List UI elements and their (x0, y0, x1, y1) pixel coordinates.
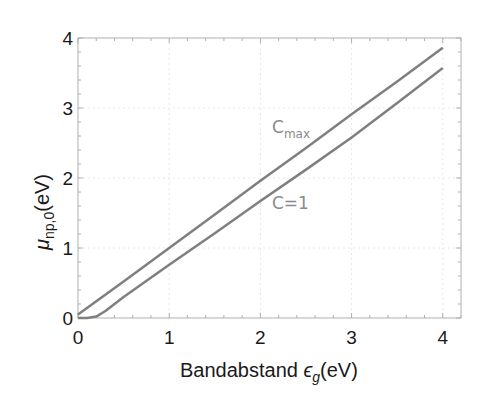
x-tick-label: 3 (346, 327, 357, 348)
y-tick-label: 3 (62, 98, 73, 119)
line-chart: 01234 01234 Cmax C=1 Bandabstand ϵg(eV) … (0, 0, 487, 405)
x-tick-label: 4 (437, 327, 448, 348)
x-tick-labels: 01234 (73, 327, 449, 348)
annotation-cmax: Cmax (272, 117, 310, 141)
y-tick-label: 1 (62, 238, 73, 259)
x-axis-title: Bandabstand ϵg(eV) (180, 359, 358, 385)
grid-lines (78, 38, 461, 318)
y-axis-title: μnp,0(eV) (31, 174, 57, 251)
y-tick-labels: 01234 (62, 28, 73, 329)
y-tick-label: 4 (62, 28, 73, 49)
y-tick-label: 0 (62, 308, 73, 329)
x-tick-label: 1 (164, 327, 175, 348)
annotation-c1: C=1 (272, 193, 309, 213)
y-tick-label: 2 (62, 168, 73, 189)
x-tick-label: 2 (255, 327, 266, 348)
x-tick-label: 0 (73, 327, 84, 348)
